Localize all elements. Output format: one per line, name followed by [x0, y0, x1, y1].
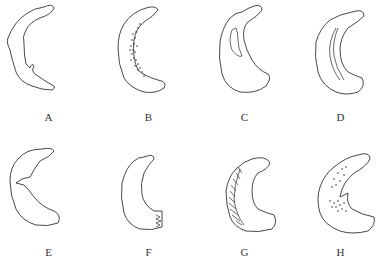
- panel-d: D: [292, 0, 389, 134]
- panel-label: H: [292, 246, 389, 258]
- panel-b: B: [100, 0, 197, 134]
- panel-label: E: [0, 246, 97, 258]
- panel-label: F: [100, 246, 197, 258]
- crescent-shape-b: [100, 0, 197, 110]
- crescent-shape-a: [0, 0, 97, 110]
- panel-e: E: [0, 135, 97, 269]
- panel-h: H: [292, 135, 389, 269]
- crescent-shape-c: [196, 0, 293, 110]
- panel-label: B: [100, 111, 197, 123]
- panel-label: G: [196, 246, 293, 258]
- panel-a: A: [0, 0, 97, 134]
- panel-c: C: [196, 0, 293, 134]
- stipple-dots: [329, 166, 347, 212]
- panel-g: G: [196, 135, 293, 269]
- crescent-shape-h: [292, 135, 389, 245]
- crescent-shape-d: [292, 0, 389, 110]
- panel-f: F: [100, 135, 197, 269]
- inner-split: [230, 28, 242, 56]
- panel-label: D: [292, 111, 389, 123]
- crescent-shape-e: [0, 135, 97, 245]
- tear-line: [330, 28, 340, 80]
- crescent-shape-f: [100, 135, 197, 245]
- panel-label: A: [0, 111, 97, 123]
- panel-label: C: [196, 111, 293, 123]
- crescent-shape-g: [196, 135, 293, 245]
- frayed-edge: [156, 215, 161, 227]
